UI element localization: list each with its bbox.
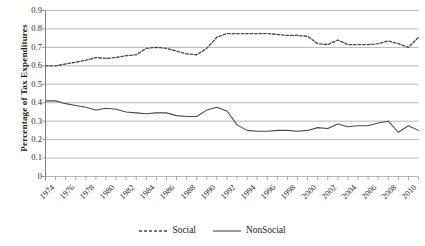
legend-entry-social[interactable]: Social — [139, 226, 195, 235]
x-axis-tick-labels: 1974197619781980198219841986198819901992… — [0, 0, 425, 246]
legend-label-social: Social — [172, 226, 195, 235]
legend-swatch-solid-icon — [213, 227, 241, 235]
legend-label-nonsocial: NonSocial — [246, 226, 286, 235]
legend-entry-nonsocial[interactable]: NonSocial — [213, 226, 286, 235]
x-axis-tick-label: 2010 — [393, 183, 419, 209]
chart-container: Percentage of Tax Expenditures 0.90.80.7… — [0, 0, 425, 246]
legend-swatch-dashed-icon — [139, 227, 167, 235]
chart-legend: Social NonSocial — [0, 226, 425, 235]
